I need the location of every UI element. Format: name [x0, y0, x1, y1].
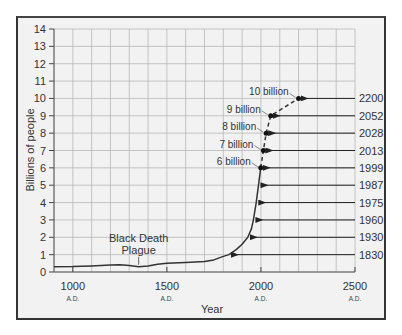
x-tick-label: 2500 — [343, 280, 367, 292]
population-chart: 012345678910111213141000A.D.1500A.D.2000… — [0, 0, 402, 335]
milestone-year-label: 1830 — [359, 249, 383, 261]
milestone-year-label: 2052 — [359, 110, 383, 122]
y-tick-label: 9 — [40, 110, 46, 122]
y-tick-label: 4 — [40, 197, 46, 209]
milestone-dot — [264, 131, 269, 136]
y-tick-label: 6 — [40, 162, 46, 174]
x-tick-label: 1000 — [61, 280, 85, 292]
milestone-leader — [254, 146, 260, 150]
milestone-label: 8 billion — [222, 121, 256, 132]
milestone-dot — [261, 148, 266, 153]
y-axis-title: Billions of people — [24, 108, 36, 191]
milestone-label: 7 billion — [219, 139, 253, 150]
x-tick-sublabel: A.D. — [255, 295, 268, 302]
milestone-year-label: 2013 — [359, 145, 383, 157]
y-tick-label: 12 — [34, 58, 46, 70]
milestone-year-label: 1930 — [359, 231, 383, 243]
annotation-black-death: Plague — [122, 244, 156, 256]
x-tick-sublabel: A.D. — [349, 295, 362, 302]
y-tick-label: 1 — [40, 249, 46, 261]
milestone-year-label: 2028 — [359, 127, 383, 139]
x-tick-sublabel: A.D. — [66, 295, 79, 302]
milestone-leader — [290, 93, 296, 97]
x-tick-label: 2000 — [249, 280, 273, 292]
milestone-dot — [268, 113, 273, 118]
x-axis-title: Year — [201, 303, 223, 315]
y-tick-label: 0 — [40, 266, 46, 278]
milestone-label: 10 billion — [249, 86, 288, 97]
y-tick-label: 2 — [40, 231, 46, 243]
y-tick-label: 13 — [34, 40, 46, 52]
y-tick-label: 14 — [34, 23, 46, 35]
x-tick-sublabel: A.D. — [161, 295, 174, 302]
y-tick-label: 5 — [40, 179, 46, 191]
y-tick-label: 10 — [34, 92, 46, 104]
y-tick-label: 3 — [40, 214, 46, 226]
milestone-year-label: 1999 — [359, 162, 383, 174]
milestone-dot — [296, 96, 301, 101]
y-tick-label: 7 — [40, 145, 46, 157]
x-tick-label: 1500 — [155, 280, 179, 292]
milestone-year-label: 1987 — [359, 179, 383, 191]
milestone-year-label: 2200 — [359, 92, 383, 104]
milestone-leader — [262, 111, 268, 115]
milestone-leader — [252, 163, 258, 167]
annotation-black-death: Black Death — [109, 232, 168, 244]
milestone-year-label: 1975 — [359, 197, 383, 209]
milestone-label: 9 billion — [227, 104, 261, 115]
milestone-leader — [257, 128, 263, 132]
milestone-dot — [258, 165, 263, 170]
milestone-label: 6 billion — [217, 156, 251, 167]
y-tick-label: 8 — [40, 127, 46, 139]
historical-population-line — [54, 168, 261, 267]
y-tick-label: 11 — [35, 75, 46, 87]
milestone-year-label: 1960 — [359, 214, 383, 226]
